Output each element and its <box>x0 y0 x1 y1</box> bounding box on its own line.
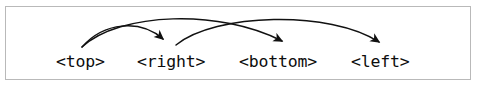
arrow-top-to-right <box>82 26 163 47</box>
figure-root: <top> <right> <bottom> <left> <box>0 0 480 90</box>
node-label-bottom: <bottom> <box>239 54 317 71</box>
node-label-top: <top> <box>56 54 105 71</box>
node-label-right: <right> <box>137 54 205 71</box>
arrow-right-to-left <box>176 19 379 45</box>
arrow-top-to-bottom <box>82 19 282 47</box>
arrow-diagram-canvas <box>0 0 480 90</box>
node-label-left: <left> <box>351 54 409 71</box>
